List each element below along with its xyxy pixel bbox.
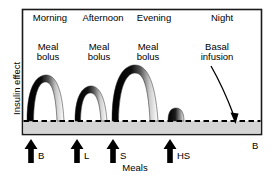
meal-arrow-breakfast — [25, 139, 38, 163]
period-label-evening: Evening — [130, 13, 178, 24]
x-axis-label: Meals — [110, 163, 160, 174]
meal-arrow-label-b: B — [38, 150, 44, 161]
end-of-day-label-b: B — [252, 140, 258, 151]
meal-arrow-label-hs: HS — [177, 150, 190, 161]
meal-arrow-snack — [107, 139, 120, 163]
annotation-meal-bolus-supper: Meal bolus — [128, 42, 168, 62]
period-label-afternoon: Afternoon — [75, 13, 131, 24]
meal-arrow-label-l: L — [84, 150, 89, 161]
meal-arrow-label-s: S — [120, 150, 126, 161]
annotation-meal-bolus-breakfast: Meal bolus — [28, 42, 68, 62]
annotation-line-2: infusion — [193, 52, 241, 62]
meal-arrow-hs — [164, 139, 177, 163]
annotation-meal-bolus-lunch: Meal bolus — [79, 42, 119, 62]
annotation-line-2: bolus — [128, 52, 168, 62]
annotation-basal-infusion: Basal infusion — [193, 42, 241, 62]
meal-arrow-lunch — [71, 139, 84, 163]
annotation-line-2: bolus — [79, 52, 119, 62]
period-label-morning: Morning — [26, 13, 74, 24]
period-label-night: Night — [200, 13, 244, 24]
basal-infusion-band — [24, 121, 261, 134]
annotation-line-2: bolus — [28, 52, 68, 62]
insulin-profile-figure: Insulin effect — [0, 0, 273, 180]
